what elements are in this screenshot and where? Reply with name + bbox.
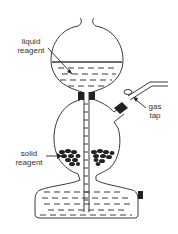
gas-tap-label: gas tap	[144, 103, 166, 120]
reservoir-outlet-stopper	[138, 191, 143, 199]
solid-reagent-label: solid reagent	[12, 150, 46, 167]
neck-seal-left	[78, 92, 84, 100]
neck-seal-right	[89, 92, 95, 100]
tube-graduations	[84, 104, 88, 200]
liquid-reagent-label: liquid reagent	[13, 38, 49, 55]
top-bulb-neck	[78, 18, 96, 26]
side-arm-seal	[114, 102, 128, 114]
top-bulb	[51, 26, 123, 96]
gas-tap-handle	[124, 90, 132, 95]
reservoir-liquid	[40, 192, 132, 215]
liquid-reagent-fill	[58, 68, 118, 86]
bottom-reservoir	[35, 180, 138, 218]
liquid-reagent-pointer	[48, 48, 72, 74]
